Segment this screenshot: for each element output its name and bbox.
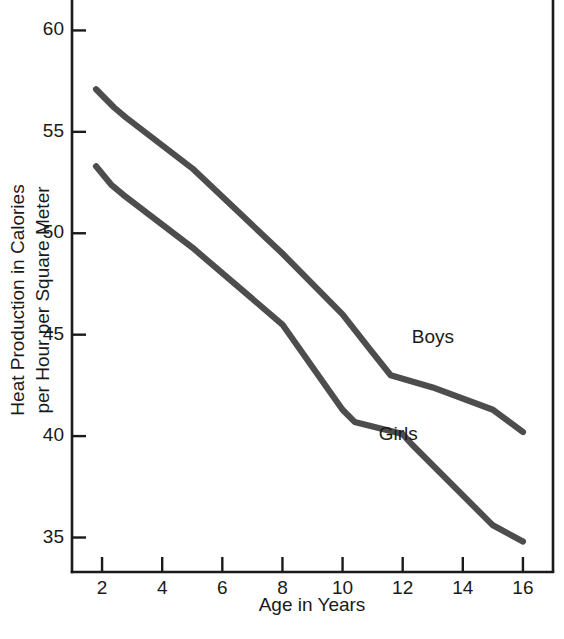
series-label-girls: Girls <box>379 423 418 444</box>
data-series-group <box>96 89 523 541</box>
series-line-boys <box>96 89 523 432</box>
chart-figure: 354045505560 246810121416 BoysGirls Age … <box>0 0 564 639</box>
y-tick-label: 55 <box>43 120 64 141</box>
y-tick-label: 35 <box>43 526 64 547</box>
x-tick-label: 6 <box>217 577 228 598</box>
x-tick-label: 12 <box>392 577 413 598</box>
series-label-boys: Boys <box>412 326 454 347</box>
x-tick-label: 14 <box>452 577 474 598</box>
x-axis-title: Age in Years <box>259 594 366 615</box>
y-axis-title-line-2: per Hour per Square Meter <box>32 186 53 414</box>
x-tick-label: 4 <box>157 577 168 598</box>
x-axis-ticks: 246810121416 <box>97 557 534 598</box>
x-tick-label: 16 <box>512 577 533 598</box>
y-tick-label: 40 <box>43 424 64 445</box>
y-axis-title-line-1: Heat Production in Calories <box>7 184 28 415</box>
y-tick-label: 60 <box>43 18 64 39</box>
series-line-girls <box>96 166 523 541</box>
x-tick-label: 2 <box>97 577 108 598</box>
line-chart-canvas: 354045505560 246810121416 BoysGirls Age … <box>0 0 564 639</box>
